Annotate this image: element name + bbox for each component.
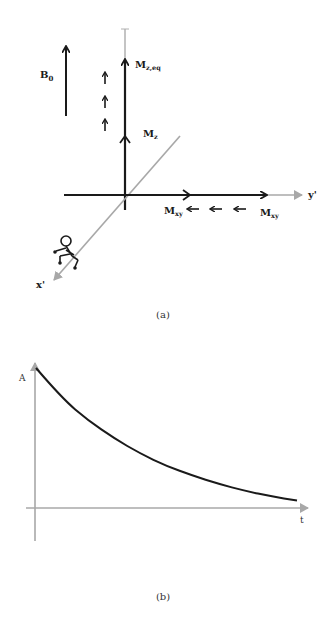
x-axis-label: x' (36, 279, 45, 290)
panel-a-diagram: B0 Mz,eq Mz x' y' Mxy Mxy (36, 29, 317, 320)
b0-label: B (40, 69, 48, 80)
mz-label: M (143, 128, 154, 139)
mz-eq-label: M (135, 59, 146, 70)
mxy-left-label-sub: xy (175, 210, 183, 218)
svg-text:Mxy: Mxy (260, 207, 279, 220)
decay-curve (36, 368, 297, 501)
y-axis-label: y' (307, 189, 317, 200)
svg-text:B0: B0 (40, 69, 53, 83)
chart-x-label: t (300, 515, 304, 525)
caption-a: (a) (156, 309, 170, 320)
svg-text:Mz,eq: Mz,eq (135, 59, 161, 72)
mxy-right-label: M (260, 207, 271, 218)
figure-canvas: B0 Mz,eq Mz x' y' Mxy Mxy (0, 0, 327, 635)
mz-label-sub: z (154, 133, 158, 141)
panel-b-chart: A t (b) (18, 363, 308, 602)
caption-b: (b) (156, 591, 170, 602)
stick-figure-observer-icon (54, 236, 78, 269)
chart-y-label: A (18, 373, 26, 383)
mz-eq-label-sub: z,eq (146, 64, 161, 72)
x-axis (54, 136, 180, 280)
svg-text:Mxy: Mxy (164, 205, 183, 218)
b0-label-sub: 0 (48, 74, 53, 83)
mxy-left-label: M (164, 205, 175, 216)
mxy-right-label-sub: xy (271, 212, 279, 220)
svg-text:Mz: Mz (143, 128, 158, 141)
